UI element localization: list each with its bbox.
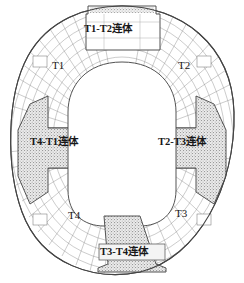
- tower-label-t2: T2: [178, 60, 190, 71]
- link-label-t4-t1: T4-T1连体: [30, 137, 78, 148]
- link-label-t2-t3: T2-T3连体: [158, 137, 206, 148]
- link-label-t1-t2: T1-T2连体: [84, 24, 132, 35]
- link-label-t3-t4: T3-T4连体: [100, 247, 148, 258]
- tower-label-t3: T3: [175, 208, 187, 219]
- floor-plan-figure: T1-T2连体 T1 T2 T4-T1连体 T2-T3连体 T4 T3 T3-T…: [0, 0, 244, 283]
- tower-label-t4: T4: [68, 210, 80, 221]
- tower-label-t1: T1: [52, 60, 64, 71]
